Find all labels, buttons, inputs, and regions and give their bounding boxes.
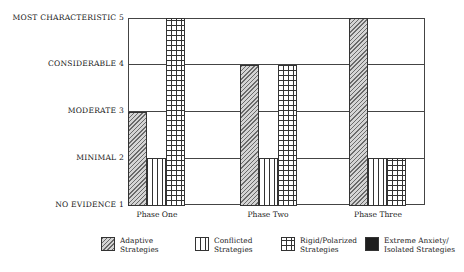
x-label-phase-one: Phase One (117, 210, 197, 219)
bar-conflicted-phase-one (147, 158, 166, 206)
vertical-dashed-swatch-icon (195, 237, 209, 251)
bar-rigid-phase-one (166, 18, 185, 206)
legend-item-rigid: Rigid/Polarized Strategies (281, 236, 368, 254)
bar-rigid-phase-three (387, 158, 406, 206)
legend-label: Extreme Anxiety/ Isolated Strategies (384, 236, 464, 254)
y-tick-label-5: MOST CHARACTERISTIC 5 (13, 13, 124, 23)
bar-conflicted-phase-two (259, 158, 278, 206)
legend-label: Rigid/Polarized Strategies (300, 236, 368, 254)
bar-adaptive-phase-one (128, 112, 147, 207)
x-label-phase-two: Phase Two (228, 210, 308, 219)
legend-item-extreme-anxiety: Extreme Anxiety/ Isolated Strategies (365, 236, 464, 254)
solid-black-swatch-icon (365, 237, 379, 251)
bar-conflicted-phase-three (368, 158, 387, 206)
legend-item-conflicted: Conflicted Strategies (195, 236, 282, 254)
y-tick-label-3: MODERATE 3 (68, 106, 124, 116)
legend-label: Conflicted Strategies (214, 236, 282, 254)
legend-item-adaptive: Adaptive Strategies (101, 236, 188, 254)
y-tick-label-2: MINIMAL 2 (76, 153, 124, 163)
bar-adaptive-phase-two (240, 65, 259, 206)
diagonal-hatch-swatch-icon (101, 237, 115, 251)
bar-adaptive-phase-three (349, 18, 368, 206)
y-tick-label-4: CONSIDERABLE 4 (48, 59, 124, 69)
y-tick-label-1: NO EVIDENCE 1 (55, 200, 124, 210)
x-label-phase-three: Phase Three (338, 210, 418, 219)
grid-swatch-icon (281, 237, 295, 251)
bar-rigid-phase-two (278, 65, 297, 206)
legend-label: Adaptive Strategies (120, 236, 188, 254)
